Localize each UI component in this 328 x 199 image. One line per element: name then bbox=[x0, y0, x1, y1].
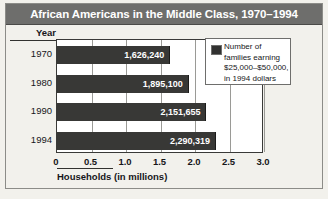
legend-label: Number offamilies earning$25,000–$50,000… bbox=[224, 42, 290, 84]
x-axis-tick-label: 0 bbox=[53, 156, 58, 167]
x-axis-title: Households (in millions) bbox=[57, 171, 167, 182]
chart-title: African Americans in the Middle Class, 1… bbox=[30, 8, 298, 20]
y-axis-tick-label: 1990 bbox=[10, 102, 52, 120]
y-axis-title: Year bbox=[12, 27, 56, 38]
x-axis-tick-label: 2.0 bbox=[187, 156, 200, 167]
legend-label-line: families earning bbox=[224, 53, 290, 64]
legend-label-line: $25,000–$50,000, bbox=[224, 63, 290, 74]
x-axis-tick-label: 1.5 bbox=[153, 156, 166, 167]
chart-figure: African Americans in the Middle Class, 1… bbox=[0, 0, 328, 199]
chart-title-bar: African Americans in the Middle Class, 1… bbox=[6, 4, 322, 25]
y-axis-tick-label: 1994 bbox=[10, 131, 52, 149]
x-axis-tick-label: 1.0 bbox=[118, 156, 131, 167]
bar-value-label: 2,290,319 bbox=[157, 132, 215, 150]
y-axis-title-rule bbox=[10, 40, 56, 41]
y-axis-tick-label: 1970 bbox=[10, 45, 52, 63]
legend-label-line: Number of bbox=[224, 42, 290, 53]
y-axis-tick-label: 1980 bbox=[10, 74, 52, 92]
bar-value-label: 1,895,100 bbox=[130, 75, 188, 93]
x-axis-tick-label: 3.0 bbox=[256, 156, 269, 167]
x-axis-title-rule bbox=[57, 168, 113, 169]
chart-legend: Number offamilies earning$25,000–$50,000… bbox=[205, 38, 291, 85]
x-axis-tick-label: 0.5 bbox=[84, 156, 97, 167]
bar-value-label: 1,626,240 bbox=[111, 46, 169, 64]
legend-label-line: in 1994 dollars bbox=[224, 74, 290, 85]
bar-value-label: 2,151,655 bbox=[147, 103, 205, 121]
x-axis-tick-label: 2.5 bbox=[222, 156, 235, 167]
legend-swatch-icon bbox=[211, 45, 222, 55]
